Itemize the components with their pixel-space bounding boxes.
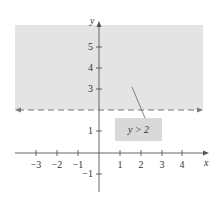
- x-tick-label: 2: [139, 159, 144, 170]
- x-tick-label: 1: [118, 159, 123, 170]
- shaded-region: [15, 25, 203, 110]
- y-axis-label: y: [89, 15, 95, 26]
- x-tick-labels: −3 −2 −1 1 2 3 4: [31, 159, 185, 170]
- y-axis-arrow: [97, 21, 102, 27]
- x-tick-label: 4: [180, 159, 185, 170]
- x-tick-label: −2: [52, 159, 63, 170]
- y-tick-label: 5: [88, 41, 93, 52]
- callout-label: y > 2: [127, 124, 149, 135]
- y-tick-label: 1: [88, 125, 93, 136]
- x-tick-label: 3: [160, 159, 165, 170]
- y-tick-label: −1: [82, 168, 93, 179]
- inequality-graph: −3 −2 −1 1 2 3 4 5 4 3 1 −1 y x y > 2: [0, 0, 221, 198]
- x-axis-arrow: [203, 151, 209, 156]
- y-tick-label: 4: [88, 62, 93, 73]
- x-axis-label: x: [203, 157, 209, 168]
- x-tick-label: −3: [31, 159, 42, 170]
- y-tick-label: 3: [88, 83, 93, 94]
